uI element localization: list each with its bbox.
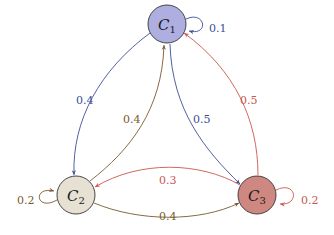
label-c3-c1: 0.5	[240, 94, 258, 107]
label-c3-c2: 0.3	[159, 174, 177, 187]
node-c1: C1	[148, 5, 186, 43]
label-c3-c3: 0.2	[301, 194, 319, 207]
node-c2: C2	[57, 176, 95, 214]
node-c3: C3	[238, 176, 276, 214]
label-c2-c1: 0.4	[123, 113, 141, 126]
node-c1-sub: 1	[169, 24, 175, 35]
self-loop-c1	[186, 17, 203, 32]
node-c3-letter: C	[248, 187, 260, 205]
node-c1-letter: C	[158, 16, 170, 34]
self-loop-c3	[276, 188, 293, 204]
markov-chain-diagram: C1 C2 C3 0.1 0.4 0.5 0.2 0.4 0.4 0.2 0.5…	[0, 0, 334, 235]
node-c3-sub: 3	[259, 195, 265, 206]
label-c2-c3: 0.4	[159, 210, 177, 223]
node-c2-sub: 2	[78, 195, 84, 206]
node-c2-letter: C	[67, 187, 79, 205]
label-c1-c2: 0.4	[76, 94, 94, 107]
label-c1-c3: 0.5	[193, 113, 211, 126]
label-c1-c1: 0.1	[209, 22, 227, 35]
label-c2-c2: 0.2	[17, 194, 35, 207]
self-loop-c2	[39, 190, 57, 203]
